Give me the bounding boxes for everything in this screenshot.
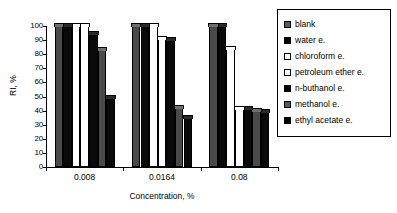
bar (106, 98, 115, 167)
bar (98, 50, 107, 167)
legend-item-label: petroleum ether e. (295, 68, 364, 77)
legend-swatch-icon (284, 37, 291, 44)
bar (218, 26, 227, 167)
bar (55, 26, 64, 167)
y-tick-mark (43, 68, 46, 69)
chart-legend: blankwater e.chloroform e.petroleum ethe… (277, 9, 391, 137)
y-tick-mark (43, 111, 46, 112)
legend-item: blank (284, 16, 390, 32)
bar (63, 26, 72, 167)
legend-item-label: chloroform e. (295, 52, 345, 61)
plot-area (46, 26, 278, 167)
y-tick-label: 40 (0, 107, 43, 115)
y-tick-mark (43, 139, 46, 140)
bar (89, 34, 98, 167)
y-tick-label: 0 (0, 163, 43, 171)
bar-top-face (54, 23, 65, 27)
y-tick-mark (43, 82, 46, 83)
y-tick-label: 80 (0, 50, 43, 58)
y-tick-mark (43, 40, 46, 41)
bar (235, 109, 244, 167)
legend-swatch-icon (284, 101, 291, 108)
legend-item: ethyl acetate e. (284, 112, 390, 128)
bar-top-face (208, 23, 219, 27)
bar (166, 40, 175, 167)
legend-item: chloroform e. (284, 48, 390, 64)
legend-swatch-icon (284, 85, 291, 92)
y-tick-mark (43, 153, 46, 154)
bar (80, 26, 89, 167)
y-tick-label: 10 (0, 149, 43, 157)
legend-item-label: ethyl acetate e. (295, 116, 353, 125)
bar-top-face (225, 46, 236, 50)
x-tick-mark (278, 167, 279, 171)
legend-item-label: n-buthanol e. (295, 84, 345, 93)
bar (175, 108, 184, 167)
y-tick-label: 20 (0, 135, 43, 143)
legend-item-label: methanol e. (295, 100, 339, 109)
y-tick-mark (43, 26, 46, 27)
bar (158, 39, 167, 167)
bar (244, 109, 253, 167)
bar-top-face (183, 115, 194, 119)
legend-item: petroleum ether e. (284, 64, 390, 80)
legend-swatch-icon (284, 117, 291, 124)
bar-top-face (157, 36, 168, 40)
bar (184, 118, 193, 167)
legend-item: water e. (284, 32, 390, 48)
legend-swatch-icon (284, 69, 291, 76)
y-tick-label: 100 (0, 22, 43, 30)
bar (149, 26, 158, 167)
y-tick-label: 70 (0, 64, 43, 72)
x-tick-label: 0.0164 (149, 172, 175, 182)
bar-top-face (97, 47, 108, 51)
bar (252, 111, 261, 167)
y-tick-label: 90 (0, 36, 43, 44)
bar-top-face (88, 31, 99, 35)
x-tick-label: 0.008 (74, 172, 95, 182)
legend-item: n-buthanol e. (284, 80, 390, 96)
bar (141, 26, 150, 167)
y-tick-mark (43, 54, 46, 55)
bar (72, 26, 81, 167)
bar-top-face (105, 95, 116, 99)
y-tick-label: 30 (0, 121, 43, 129)
bar-top-face (234, 106, 245, 110)
legend-item-label: blank (295, 20, 315, 29)
y-tick-mark (43, 125, 46, 126)
bar (261, 112, 270, 167)
legend-item-label: water e. (295, 36, 325, 45)
legend-swatch-icon (284, 53, 291, 60)
bar (209, 26, 218, 167)
bar (132, 26, 141, 167)
x-tick-mark (46, 167, 47, 171)
chart-figure: RI, % 0102030405060708090100 0.0080.0164… (0, 0, 397, 213)
y-tick-label: 50 (0, 93, 43, 101)
x-tick-mark (201, 167, 202, 171)
y-tick-label: 60 (0, 78, 43, 86)
bar (226, 49, 235, 167)
bar-top-face (131, 23, 142, 27)
x-tick-mark (123, 167, 124, 171)
legend-item: methanol e. (284, 96, 390, 112)
legend-swatch-icon (284, 21, 291, 28)
y-tick-mark (43, 97, 46, 98)
x-axis-line (46, 167, 278, 168)
x-axis-title: Concentration, % (46, 191, 278, 201)
x-tick-label: 0.08 (231, 172, 248, 182)
bar-top-face (174, 105, 185, 109)
